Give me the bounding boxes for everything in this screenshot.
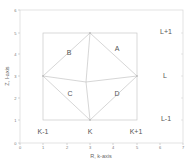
x-tick-label: 7 xyxy=(182,145,185,150)
column-label-k-minus-1: K-1 xyxy=(38,128,49,135)
y-tick-label: 1 xyxy=(14,118,17,123)
region-label-a: A xyxy=(115,45,120,52)
region-label-c: C xyxy=(67,90,72,97)
x-tick-label: 2 xyxy=(66,145,69,150)
x-tick-label: 0 xyxy=(19,145,22,150)
y-axis-tick-labels: 0 1 2 3 4 5 6 xyxy=(14,8,17,146)
column-label-k-plus-1: K+1 xyxy=(130,128,143,135)
grid-diagram: 0 1 2 3 4 5 6 7 0 1 2 3 4 5 6 R, k-axis … xyxy=(0,0,194,166)
y-tick-label: 6 xyxy=(14,8,17,13)
region-label-b: B xyxy=(67,49,72,56)
diamond-outline xyxy=(43,33,137,120)
x-tick-label: 3 xyxy=(89,145,92,150)
row-label-l-minus-1: L-1 xyxy=(161,115,171,122)
x-tick-label: 4 xyxy=(112,145,115,150)
row-label-l-plus-1: L+1 xyxy=(160,28,172,35)
x-tick-label: 5 xyxy=(136,145,139,150)
x-tick-label: 1 xyxy=(42,145,45,150)
y-axis-label: Z, l-axis xyxy=(4,66,10,86)
vertex-markers xyxy=(42,32,138,121)
y-tick-label: 0 xyxy=(14,141,17,146)
region-label-d: D xyxy=(114,90,119,97)
inner-square xyxy=(43,33,137,120)
y-tick-label: 5 xyxy=(14,31,17,36)
y-tick-label: 4 xyxy=(14,52,17,57)
diamond-spokes xyxy=(43,33,137,120)
x-axis-tick-labels: 0 1 2 3 4 5 6 7 xyxy=(19,145,185,150)
y-tick-label: 3 xyxy=(14,74,17,79)
column-label-k: K xyxy=(88,128,93,135)
y-tick-label: 2 xyxy=(14,96,17,101)
x-tick-label: 6 xyxy=(159,145,162,150)
x-axis-label: R, k-axis xyxy=(90,153,112,159)
row-label-l: L xyxy=(163,72,167,79)
